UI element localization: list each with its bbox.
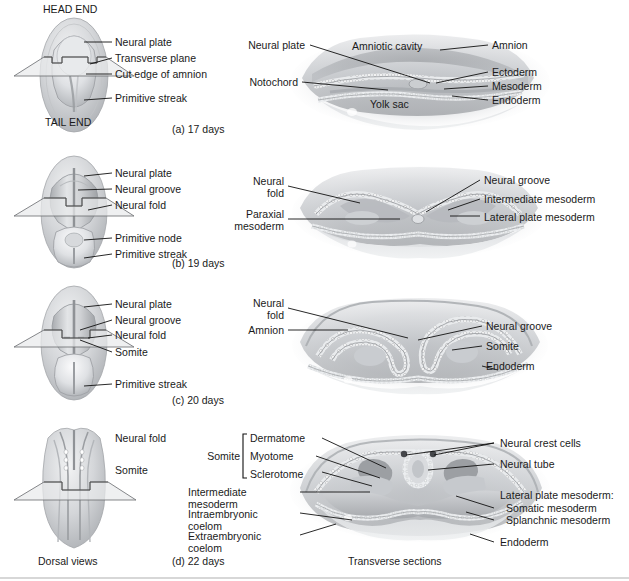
label-d-extraembryonic-coelom: Extraembryonic coelom (188, 530, 261, 555)
label-a-ectoderm: Ectoderm (492, 66, 537, 78)
label-d-somatic-mesoderm: Somatic mesoderm (506, 502, 597, 514)
label-a-sec-neural-plate: Neural plate (180, 39, 305, 51)
label-a-endoderm: Endoderm (492, 94, 541, 106)
label-c-primitive-streak: Primitive streak (115, 378, 187, 390)
label-c-neural-fold-sec: Neural fold (180, 297, 284, 322)
label-d-lateral-plate-mesoderm-header: Lateral plate mesoderm: (500, 489, 614, 501)
label-a-mesoderm: Mesoderm (492, 80, 542, 92)
label-c-neural-plate: Neural plate (115, 298, 172, 310)
label-c-neural-groove-sec: Neural groove (486, 320, 552, 332)
label-b-paraxial-mesoderm: Paraxial mesoderm (180, 208, 284, 233)
caption-d: (d) 22 days (172, 555, 225, 567)
label-d-endoderm: Endoderm (500, 536, 549, 548)
leaders-b-dorsal (78, 173, 112, 258)
label-d-dermatome: Dermatome (250, 432, 305, 444)
label-b-lateral-plate-mesoderm: Lateral plate mesoderm (484, 211, 595, 223)
label-d-neural-tube: Neural tube (500, 458, 555, 470)
caption-b: (b) 19 days (172, 257, 225, 269)
label-b-intermediate-mesoderm: Intermediate mesoderm (484, 193, 595, 205)
tail-end-label: TAIL END (45, 116, 91, 128)
label-d-neural-crest-cells: Neural crest cells (500, 437, 581, 449)
caption-a: (a) 17 days (172, 123, 225, 135)
label-b-neural-plate: Neural plate (115, 167, 172, 179)
label-c-somite-sec: Somite (486, 340, 519, 352)
caption-transverse-sections: Transverse sections (348, 555, 442, 567)
label-d-sclerotome: Sclerotome (250, 468, 303, 480)
label-a-neural-plate: Neural plate (115, 36, 172, 48)
label-b-neural-fold-sec: Neural fold (180, 175, 284, 200)
label-b-neural-fold: Neural fold (115, 199, 166, 211)
label-c-amnion: Amnion (180, 324, 284, 336)
label-d-myotome: Myotome (250, 450, 293, 462)
label-c-neural-groove: Neural groove (115, 314, 181, 326)
leaders-c-dorsal (80, 304, 112, 386)
label-d-splanchnic-mesoderm: Splanchnic mesoderm (506, 514, 610, 526)
label-a-primitive-streak: Primitive streak (115, 92, 187, 104)
leaders-a-section (302, 45, 488, 100)
label-a-amniotic-cavity: Amniotic cavity (352, 40, 422, 52)
label-d-somite: Somite (115, 464, 148, 476)
label-a-amnion: Amnion (492, 39, 528, 51)
label-d-somite-group: Somite (188, 450, 240, 462)
embryology-figure: HEAD END TAIL END Neural plate Transvers… (0, 0, 629, 581)
label-c-somite: Somite (115, 346, 148, 358)
label-b-neural-groove: Neural groove (115, 183, 181, 195)
head-end-label: HEAD END (43, 3, 97, 15)
caption-dorsal-views: Dorsal views (38, 555, 98, 567)
label-b-primitive-node: Primitive node (115, 232, 182, 244)
label-b-neural-groove-sec: Neural groove (484, 174, 550, 186)
leaders-d-right (406, 443, 494, 542)
caption-c: (c) 20 days (172, 394, 224, 406)
label-a-yolk-sac: Yolk sac (370, 98, 409, 110)
label-c-neural-fold: Neural fold (115, 329, 166, 341)
leaders-c-section (288, 308, 498, 370)
label-a-sec-notochord: Notochord (180, 76, 298, 88)
label-a-transverse-plane: Transverse plane (115, 52, 196, 64)
leaders-b-section (288, 180, 480, 219)
label-d-neural-fold: Neural fold (115, 432, 166, 444)
leaders-a-dorsal (84, 42, 112, 100)
label-c-endoderm: Endoderm (486, 360, 535, 372)
